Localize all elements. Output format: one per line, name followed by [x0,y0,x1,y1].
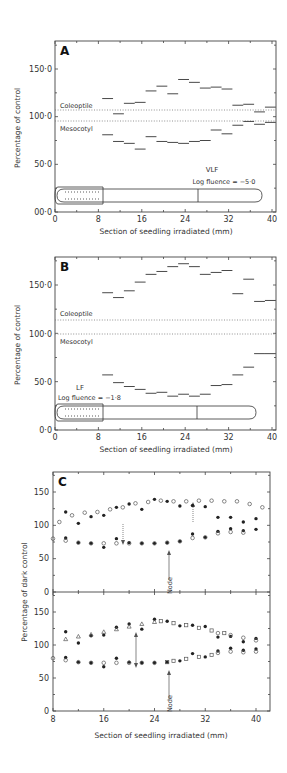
filled-circle-point [77,522,80,525]
node-label-upper: Node [166,577,174,594]
y-tick-0-lower: 0 [44,707,49,716]
open-circle-point [159,499,163,503]
filled-circle-point [64,510,67,513]
filled-circle-point [115,506,118,509]
filled-circle-point [191,532,194,535]
open-square-point [223,632,226,635]
filled-circle-point [165,500,168,503]
fluence-label: Log fluence = −5·0 [193,178,256,186]
filled-circle-point [204,655,207,658]
open-circle-point [229,530,233,534]
y-tick-150: 150·0 [29,281,52,290]
open-circle-point [235,500,239,504]
x-axis-label: Section of seedling irradiated (mm) [99,445,232,454]
open-circle-point [197,499,201,503]
arrow-markers [121,502,195,700]
open-circle-point [172,500,176,504]
x-tick-label: 0 [52,433,57,442]
y-tick-100: 100·0 [29,112,52,121]
open-triangle-point [140,622,144,626]
filled-circle-point [102,546,105,549]
filled-circle-point [178,659,181,662]
filled-circle-point [165,660,168,663]
mesocotyl-label: Mesocotyl [60,338,93,346]
panel-a: A 150·0 100·0 50·0 00·0 Percentage of co… [13,41,277,236]
filled-circle-point [254,517,257,520]
filled-circle-point [178,624,181,627]
open-triangle-point [127,625,131,629]
y-tick-150-lower: 150 [34,608,49,617]
x-tick-label: 32 [224,433,234,442]
x-tick-label: 16 [137,215,147,224]
panel-c-frame [53,472,270,711]
open-circle-point [229,650,233,654]
x-tick-label: 16 [99,715,109,724]
open-circle-point [96,510,100,514]
x-tick-label: 40 [267,433,277,442]
filled-circle-point [140,627,143,630]
filled-circle-point [204,505,207,508]
filled-circle-point [191,624,194,627]
filled-circle-point [229,516,232,519]
treatment-label: LF [76,384,84,392]
y-tick-100-upper: 100 [34,521,49,530]
y-axis-label: Percentage of control [13,305,22,385]
y-tick-100: 100·0 [29,330,52,339]
filled-circle-point [204,625,207,628]
filled-circle-point [102,514,105,517]
filled-circle-point [77,641,80,644]
y-tick-50-lower: 50 [39,674,49,683]
treatment-label: VLF [206,166,219,174]
open-circle-point [216,631,220,635]
mesocotyl-label: Mesocotyl [60,125,93,133]
open-circle-point [242,636,246,640]
open-square-point [185,657,188,660]
panel-c: C 150 100 50 0 150 100 50 0 Percentage o… [20,472,270,740]
x-tick-label: 24 [180,215,190,224]
filled-circle-point [216,635,219,638]
open-circle-point [108,508,112,512]
x-tick-label: 32 [200,715,210,724]
node-label-lower: Node [166,695,174,712]
x-tick-label: 8 [96,433,101,442]
open-circle-point [115,661,119,665]
y-axis-label: Percentage of control [13,88,22,168]
open-circle-point [70,514,74,518]
x-axis-label: Section of seedling irradiated (mm) [99,227,232,236]
open-square-point [159,620,162,623]
filled-circle-point [153,498,156,501]
open-circle-point [121,506,125,510]
filled-circle-point [216,516,219,519]
y-tick-0: 0·0 [39,426,52,435]
x-tick-label: 8 [96,215,101,224]
open-square-point [197,655,200,658]
x-axis-label: Section of seedling irradiated (mm) [94,731,227,740]
seedling-diagram [55,404,256,421]
open-square-point [172,659,175,662]
open-circle-point [115,542,119,546]
open-square-point [210,629,213,632]
open-circle-point [58,520,62,524]
y-tick-50: 50·0 [34,378,52,387]
open-square-point [210,653,213,656]
open-circle-point [83,511,87,515]
open-circle-point [184,500,188,504]
open-circle-point [261,506,265,510]
filled-circle-point [178,504,181,507]
filled-circle-point [254,528,257,531]
x-tick-label: 40 [267,215,277,224]
filled-circle-point [127,502,130,505]
open-circle-point [222,500,226,504]
coleoptile-label: Coleoptile [60,310,93,318]
filled-circle-point [140,508,143,511]
open-circle-point [146,500,150,504]
y-tick-150: 150·0 [29,65,52,74]
open-circle-point [248,502,252,506]
x-tick-label: 16 [137,433,147,442]
panel-b-letter: B [60,260,69,274]
panel-c-letter: C [58,475,67,489]
y-tick-0: 00·0 [34,208,52,217]
panel-b: B 150·0 100·0 50·0 0·0 Percentage of con… [13,257,277,454]
open-circle-point [102,661,106,665]
filled-circle-point [242,520,245,523]
